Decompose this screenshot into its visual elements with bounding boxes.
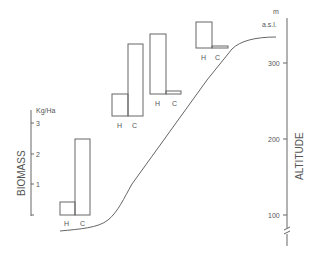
label-c-3: C [172,100,177,107]
biomass-altitude-chart: Kg/Ha 3 2 1 BIOMASS m a.s.l. 300 200 100… [0,0,312,254]
label-h-1: H [64,220,69,227]
bar-group-3 [150,34,181,94]
bar-group-4 [196,22,228,48]
label-h-3: H [155,100,160,107]
tick-100: 100 [268,212,280,219]
altitude-label: ALTITUDE [294,132,305,180]
biomass-label: BIOMASS [16,150,27,196]
biomass-unit: Kg/Ha [36,107,56,115]
tick-200: 200 [268,136,280,143]
label-h-4: H [201,54,206,61]
tick-2: 2 [36,151,40,158]
label-h-2: H [117,122,122,129]
tick-3: 3 [36,120,40,127]
bar-group-2 [112,44,143,116]
bar-group-1 [60,139,90,215]
altitude-unit-asl: a.s.l. [262,21,277,28]
label-c-1: C [80,220,85,227]
tick-1: 1 [36,181,40,188]
tick-300: 300 [268,60,280,67]
label-c-4: C [215,54,220,61]
altitude-curve [60,37,276,231]
label-c-2: C [132,122,137,129]
altitude-unit-m: m [273,8,279,15]
